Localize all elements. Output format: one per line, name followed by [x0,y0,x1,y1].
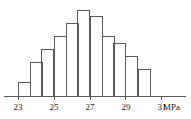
histogram-bars [18,10,150,96]
histogram-bar [114,43,126,96]
histogram-bar [102,36,114,96]
histogram-bar [126,56,138,96]
histogram-bar [90,17,102,96]
histogram-bar [66,23,78,96]
histogram-bar [18,83,30,96]
x-axis-unit-label: MPa [163,102,180,112]
x-axis-tick-label: 23 [14,102,24,112]
histogram-bar [30,63,42,96]
x-axis-tick-label: 29 [121,102,131,112]
histogram-bar [42,50,54,96]
histogram-screenshot: 2325272931 MPa [0,0,191,119]
histogram-chart: 2325272931 MPa [0,0,191,119]
chart-area: 2325272931 MPa [0,0,191,119]
histogram-bar [78,10,90,96]
x-axis-tick-label: 27 [86,102,96,112]
histogram-bar [138,70,150,96]
x-axis-tick-labels: 2325272931 [14,102,167,112]
x-axis-tick-label: 25 [50,102,60,112]
histogram-bar [54,36,66,96]
